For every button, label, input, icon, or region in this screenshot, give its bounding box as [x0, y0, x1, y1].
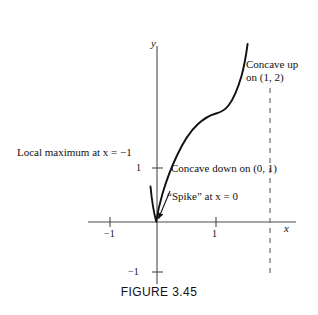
- tick-label-x-one: 1: [212, 228, 217, 239]
- axis-label-y: y: [151, 37, 156, 49]
- tick-label-y-negative-one: −1: [128, 266, 139, 277]
- figure-container: Local maximum at x = −1 Concave down on …: [0, 0, 318, 315]
- tick-label-y-one: 1: [136, 162, 141, 173]
- axis-label-x: x: [284, 222, 289, 234]
- tick-label-x-negative-one: −1: [104, 228, 115, 239]
- annotation-concave-down: Concave down on (0, 1): [171, 162, 277, 175]
- annotation-local-maximum: Local maximum at x = −1: [17, 146, 132, 159]
- annotation-concave-up-line1: Concave up: [246, 58, 310, 71]
- figure-caption: FIGURE 3.45: [0, 285, 318, 299]
- annotation-concave-up-line2: on (1, 2): [246, 71, 310, 84]
- annotation-spike: “Spike” at x = 0: [167, 190, 238, 203]
- annotation-concave-up: Concave up on (1, 2): [246, 58, 310, 84]
